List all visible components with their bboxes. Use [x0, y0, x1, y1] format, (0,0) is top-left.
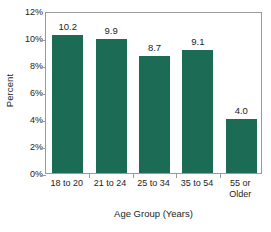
bar-value-label: 8.7 [131, 42, 179, 53]
x-axis-title: Age Group (Years) [45, 208, 262, 219]
bar [52, 35, 83, 173]
y-axis-tick-mark [41, 94, 46, 95]
y-axis-title-text: Percent [5, 73, 16, 106]
x-axis-tick-label-line: Older [210, 189, 270, 200]
bar-chart-figure: Percent 0%2%4%6%8%10%12% 10.29.98.79.14.… [0, 0, 271, 232]
y-axis-tick-label: 6% [17, 88, 43, 98]
y-axis-tick-label: 2% [17, 142, 43, 152]
bar-value-label: 4.0 [217, 105, 265, 116]
x-axis-tick-label: 55 orOlder [210, 178, 270, 200]
bar-value-label: 9.9 [87, 25, 135, 36]
y-axis-tick-label: 10% [17, 34, 43, 44]
y-axis-tick-mark [41, 40, 46, 41]
bar [139, 56, 170, 173]
bar [226, 119, 257, 173]
x-axis-tick-label-line: 55 or [210, 178, 270, 189]
y-axis-tick-label: 12% [17, 7, 43, 17]
bar [182, 50, 213, 173]
bar-value-label: 10.2 [44, 21, 92, 32]
y-axis-tick-mark [41, 175, 46, 176]
bar-value-label: 9.1 [174, 36, 222, 47]
y-axis-tick-label: 4% [17, 115, 43, 125]
y-axis-tick-mark [41, 148, 46, 149]
y-axis-tick-mark [41, 121, 46, 122]
y-axis-tick-labels: 0%2%4%6%8%10%12% [15, 0, 43, 232]
plot-area: 10.29.98.79.14.0 [45, 12, 262, 174]
y-axis-tick-mark [41, 67, 46, 68]
y-axis-tick-label: 8% [17, 61, 43, 71]
bar [96, 39, 127, 173]
